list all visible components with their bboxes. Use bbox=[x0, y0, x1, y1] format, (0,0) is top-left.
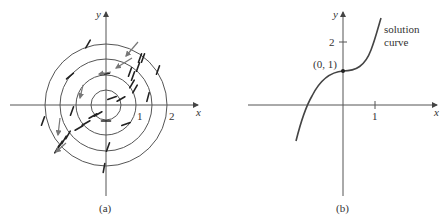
slope-mark bbox=[131, 72, 134, 80]
slope-mark bbox=[128, 68, 131, 76]
direction-field-marks bbox=[41, 40, 159, 172]
flow-arrow bbox=[126, 42, 138, 56]
panel-b: 2 1 (0, 1) solution curve x y (b) bbox=[248, 8, 439, 215]
y-tick-label-2-b: 2 bbox=[329, 36, 335, 48]
slope-mark bbox=[66, 131, 71, 139]
slope-mark bbox=[67, 73, 74, 79]
caption-b: (b) bbox=[336, 202, 349, 215]
y-label-b: y bbox=[332, 8, 338, 20]
flow-arrow bbox=[116, 58, 132, 68]
slope-mark bbox=[117, 97, 125, 102]
slope-mark bbox=[133, 85, 138, 93]
slope-mark bbox=[103, 164, 105, 173]
tick-label-2-a: 2 bbox=[169, 110, 175, 122]
x-label-b: x bbox=[433, 106, 439, 118]
curve-label-line2: curve bbox=[384, 36, 409, 48]
slope-mark bbox=[130, 80, 135, 88]
point-label: (0, 1) bbox=[313, 58, 337, 71]
x-label-a: x bbox=[195, 106, 201, 118]
y-label-a: y bbox=[95, 8, 101, 20]
slope-mark bbox=[108, 96, 116, 99]
slope-mark bbox=[70, 107, 73, 115]
figure: x y 1 2 (a) 2 1 (0, 1) solution curve x … bbox=[0, 0, 441, 221]
slope-mark bbox=[106, 143, 109, 151]
solution-curve bbox=[296, 18, 381, 141]
x-tick-label-1-b: 1 bbox=[372, 110, 378, 122]
slope-mark bbox=[41, 117, 44, 125]
panel-a: x y 1 2 (a) bbox=[10, 8, 201, 215]
caption-a: (a) bbox=[99, 202, 112, 215]
slope-mark bbox=[136, 63, 139, 71]
tick-label-1-a: 1 bbox=[137, 110, 143, 122]
slope-mark bbox=[75, 126, 83, 131]
slope-mark bbox=[82, 121, 90, 126]
flow-arrow bbox=[58, 118, 60, 135]
initial-point bbox=[341, 69, 345, 73]
curve-label-line1: solution bbox=[384, 23, 420, 35]
slope-mark bbox=[147, 93, 149, 102]
